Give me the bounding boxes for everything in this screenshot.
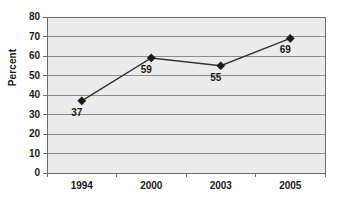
data-point-label: 37 [71, 107, 83, 118]
data-point-label: 55 [210, 72, 222, 83]
line-chart: Percent 01020304050607080 19942000200320… [0, 0, 345, 201]
data-point-label: 69 [280, 44, 292, 55]
plot-area: 37595569 [0, 0, 345, 201]
data-point-label: 59 [141, 64, 153, 75]
